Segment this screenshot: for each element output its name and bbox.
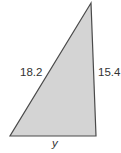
triangle-diagram: 18.2 15.4 y — [0, 0, 121, 153]
hypotenuse-label: 18.2 — [20, 66, 42, 78]
base-label: y — [51, 137, 59, 149]
right-side-label: 15.4 — [98, 66, 121, 78]
